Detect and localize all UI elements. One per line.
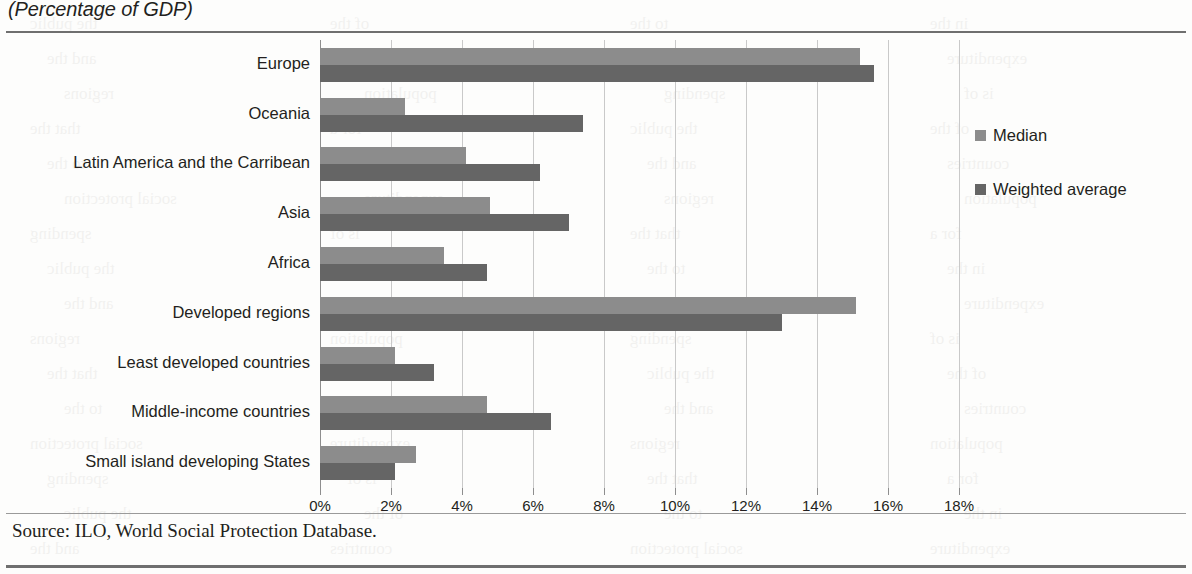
legend-swatch-median-icon — [975, 130, 986, 141]
category-label: Small island developing States — [10, 452, 310, 471]
x-tick-4% — [462, 488, 463, 495]
divider-top — [6, 31, 1186, 33]
x-axis-label: 0% — [309, 497, 331, 514]
category-label: Asia — [10, 203, 310, 222]
bar-median — [320, 396, 487, 413]
x-axis-label: 2% — [380, 497, 402, 514]
category-label: Europe — [10, 54, 310, 73]
legend-item-weighted-average: Weighted average — [975, 180, 1127, 199]
bar-weighted-average — [320, 314, 782, 331]
bar-median — [320, 147, 466, 164]
bar-weighted-average — [320, 413, 551, 430]
bar-weighted-average — [320, 115, 583, 132]
bar-group — [320, 48, 959, 82]
category-label: Latin America and the Carribean — [10, 153, 310, 172]
bar-median — [320, 197, 490, 214]
x-axis-label: 16% — [873, 497, 903, 514]
x-tick-2% — [391, 488, 392, 495]
x-axis-label: 12% — [731, 497, 761, 514]
bar-group — [320, 446, 959, 480]
x-tick-12% — [746, 488, 747, 495]
bar-group — [320, 247, 959, 281]
bar-group — [320, 147, 959, 181]
bar-group — [320, 197, 959, 231]
bar-group — [320, 297, 959, 331]
bar-weighted-average — [320, 164, 540, 181]
legend-label-weighted-average: Weighted average — [993, 180, 1127, 199]
bar-median — [320, 446, 416, 463]
bar-median — [320, 247, 444, 264]
x-axis-label: 6% — [522, 497, 544, 514]
x-axis-label: 10% — [660, 497, 690, 514]
x-axis-label: 8% — [593, 497, 615, 514]
chart-subtitle: (Percentage of GDP) — [8, 0, 193, 21]
source-note: Source: ILO, World Social Protection Dat… — [12, 520, 377, 542]
bar-weighted-average — [320, 214, 569, 231]
x-tick-16% — [888, 488, 889, 495]
bar-group — [320, 347, 959, 381]
bar-weighted-average — [320, 65, 874, 82]
bar-median — [320, 98, 405, 115]
bar-weighted-average — [320, 264, 487, 281]
bar-weighted-average — [320, 463, 395, 480]
legend-item-median: Median — [975, 126, 1047, 145]
divider-above-source — [6, 513, 1186, 514]
bar-weighted-average — [320, 364, 434, 381]
plot-area: 0%2%4%6%8%10%12%14%16%18%EuropeOceaniaLa… — [320, 40, 959, 488]
x-axis-label: 4% — [451, 497, 473, 514]
category-label: Least developed countries — [10, 353, 310, 372]
bar-median — [320, 297, 856, 314]
x-axis-label: 18% — [944, 497, 974, 514]
x-tick-14% — [817, 488, 818, 495]
category-label: Middle-income countries — [10, 402, 310, 421]
x-tick-8% — [604, 488, 605, 495]
x-tick-0% — [320, 488, 321, 495]
x-tick-18% — [959, 488, 960, 495]
x-axis-label: 14% — [802, 497, 832, 514]
bar-median — [320, 347, 395, 364]
legend-swatch-weighted-average-icon — [975, 184, 986, 195]
bar-group — [320, 98, 959, 132]
category-label: Developed regions — [10, 303, 310, 322]
x-tick-10% — [675, 488, 676, 495]
bar-group — [320, 396, 959, 430]
legend-label-median: Median — [993, 126, 1047, 145]
bar-chart: 0%2%4%6%8%10%12%14%16%18%EuropeOceaniaLa… — [0, 0, 1192, 574]
bar-median — [320, 48, 860, 65]
category-label: Oceania — [10, 104, 310, 123]
x-tick-6% — [533, 488, 534, 495]
divider-bottom — [6, 565, 1186, 568]
gridline-18% — [959, 40, 960, 488]
category-label: Africa — [10, 253, 310, 272]
